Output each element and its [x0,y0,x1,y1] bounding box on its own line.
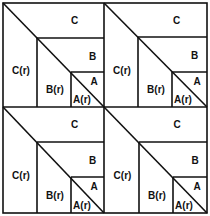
label-a: A [193,76,200,87]
label-c-r: C(r) [113,65,131,76]
label-b-r: B(r) [148,190,166,201]
label-b-r: B(r) [46,84,64,95]
label-b: B [191,155,198,166]
label-c: C [173,15,180,26]
nested-triangle-tiling-diagram: CBAC(r)B(r)A(r)CBAC(r)B(r)A(r)CBAC(r)B(r… [0,0,210,216]
label-a-r: A(r) [175,200,193,211]
label-c-r: C(r) [12,170,30,181]
label-a-r: A(r) [174,94,192,105]
label-a-r: A(r) [73,200,91,211]
label-b: B [89,51,96,62]
label-c-r: C(r) [114,170,132,181]
quadrant-bottom-right: CBAC(r)B(r)A(r) [104,107,207,213]
quadrant-top-right: CBAC(r)B(r)A(r) [104,3,207,107]
label-a: A [90,181,97,192]
quadrant-bottom-left: CBAC(r)B(r)A(r) [3,107,104,213]
label-b: B [89,155,96,166]
label-b-r: B(r) [147,84,165,95]
label-a: A [193,181,200,192]
label-c-r: C(r) [12,65,30,76]
quadrant-top-left: CBAC(r)B(r)A(r) [3,3,104,107]
label-c: C [71,15,78,26]
label-c: C [173,119,180,130]
label-c: C [71,119,78,130]
label-a: A [90,76,97,87]
label-a-r: A(r) [73,94,91,105]
label-b: B [191,50,198,61]
label-b-r: B(r) [46,190,64,201]
